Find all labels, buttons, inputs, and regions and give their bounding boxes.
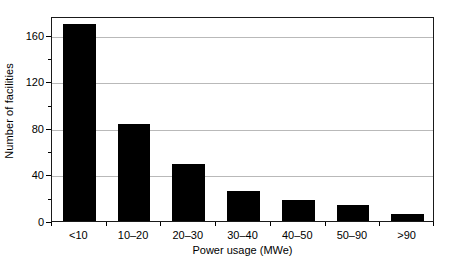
y-axis-tick-labels: 04080120160	[18, 0, 44, 262]
x-axis-title: Power usage (MWe)	[51, 243, 434, 257]
x-tick	[325, 222, 326, 226]
y-tick-label: 120	[18, 77, 44, 88]
y-axis-title-text: Number of facilities	[3, 63, 15, 159]
bar-chart: Number of facilities 04080120160 <1010–2…	[0, 0, 452, 262]
plot-area	[51, 17, 434, 222]
x-tick	[51, 222, 52, 226]
x-tick	[106, 222, 107, 226]
bar	[282, 200, 315, 221]
x-axis-tick-marks	[51, 222, 434, 227]
x-tick-label: 10–20	[118, 228, 149, 242]
y-tick-label: 160	[18, 30, 44, 41]
x-tick-label: <10	[69, 228, 88, 242]
bars-group	[52, 18, 433, 221]
bar	[337, 205, 370, 221]
x-tick-label: >90	[397, 228, 416, 242]
bar	[391, 214, 424, 221]
x-tick-label: 30–40	[227, 228, 258, 242]
x-tick-label: 50–90	[337, 228, 368, 242]
x-tick	[379, 222, 380, 226]
x-tick	[433, 222, 434, 226]
y-tick-label: 40	[18, 170, 44, 181]
y-tick-label: 0	[18, 217, 44, 228]
bar	[118, 124, 151, 221]
x-tick	[215, 222, 216, 226]
x-tick-label: 40–50	[282, 228, 313, 242]
x-tick-label: 20–30	[172, 228, 203, 242]
bar	[227, 191, 260, 221]
y-axis-title: Number of facilities	[0, 0, 18, 222]
x-axis-tick-labels: <1010–2020–3030–4040–5050–90>90	[51, 228, 434, 244]
x-tick	[270, 222, 271, 226]
bar	[172, 164, 205, 221]
bar	[63, 24, 96, 221]
x-tick	[160, 222, 161, 226]
y-tick-label: 80	[18, 123, 44, 134]
